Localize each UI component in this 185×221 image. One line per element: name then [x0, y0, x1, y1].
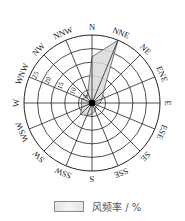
legend-swatch [54, 201, 84, 212]
direction-label-ne: NE [138, 42, 153, 57]
spoke-se [92, 103, 140, 151]
wind-rose-chart: NNNENEENEEESESESSESSSWSWWSWWWNWNWNNW 510… [0, 0, 185, 195]
spoke-sw [44, 103, 92, 151]
direction-label-w: W [11, 99, 21, 107]
direction-label-ese: ESE [155, 123, 170, 141]
direction-label-ene: ENE [154, 64, 170, 83]
frequency-petals [81, 40, 119, 115]
ring-labels: 510152025 [31, 70, 91, 99]
direction-label-s: S [89, 174, 94, 184]
ring-label: 20 [43, 75, 53, 85]
ring-label: 25 [31, 70, 41, 80]
direction-label-sse: SSE [112, 166, 129, 181]
center-dot [89, 100, 95, 106]
direction-label-wnw: WNW [13, 62, 31, 86]
legend: 风频率 / % [54, 199, 141, 214]
direction-label-n: N [89, 22, 95, 32]
ring-label: 10 [68, 86, 78, 96]
frequency-polygon [81, 40, 119, 115]
ring-label: 15 [56, 81, 66, 91]
direction-label-e: E [163, 100, 173, 105]
direction-label-se: SE [139, 150, 153, 164]
legend-label: 风频率 / % [92, 199, 141, 214]
